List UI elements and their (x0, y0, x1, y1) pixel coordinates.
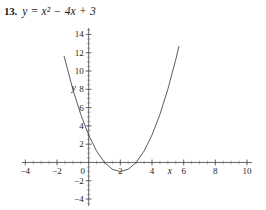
y-axis-tick-label: 2 (54, 139, 84, 149)
x-axis-tick-label: 8 (213, 166, 218, 176)
worksheet-problem-figure: 13.y = x² − 4x + 3 −4−20246810−4−2246810… (0, 0, 266, 210)
y-axis-tick-label: −4 (54, 194, 84, 204)
y-axis-tick-label: 8 (54, 84, 84, 94)
problem-equation: y = x² − 4x + 3 (22, 5, 96, 17)
x-axis-tick-label: 4 (150, 166, 155, 176)
x-axis-tick-label: 6 (181, 166, 186, 176)
graph-plot-area: −4−20246810−4−22468101214xy (0, 18, 266, 210)
x-axis-tick-label: 2 (118, 166, 123, 176)
x-axis-label: x (168, 166, 172, 176)
y-axis-tick-label: 14 (54, 29, 84, 39)
problem-header: 13.y = x² − 4x + 3 (4, 4, 96, 18)
cartesian-graph (0, 18, 266, 210)
y-axis-label: y (72, 83, 76, 93)
y-axis-tick-label: −2 (54, 176, 84, 186)
y-axis-tick-label: 12 (54, 48, 84, 58)
x-axis-tick-label: −4 (21, 166, 31, 176)
y-axis-tick-label: 6 (54, 103, 84, 113)
y-axis-tick-label: 10 (54, 66, 84, 76)
x-axis-tick-label: 10 (243, 166, 252, 176)
y-axis-tick-label: 4 (54, 121, 84, 131)
problem-number: 13. (4, 5, 17, 17)
